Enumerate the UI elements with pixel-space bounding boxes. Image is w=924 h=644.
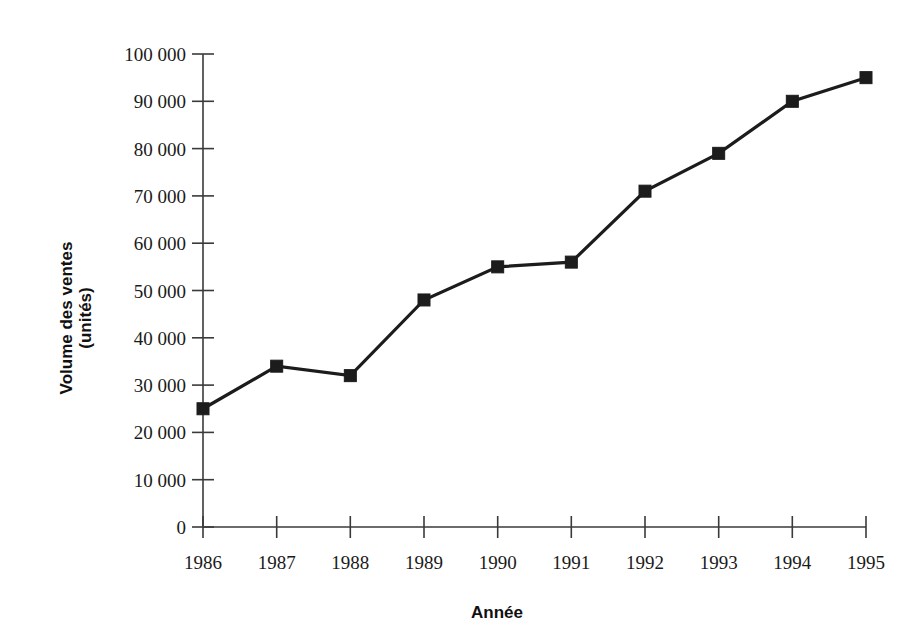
x-tick-label: 1995 [847, 552, 885, 573]
x-tick-label: 1990 [479, 552, 517, 573]
data-point-marker [860, 72, 872, 84]
x-tick-label: 1993 [700, 552, 738, 573]
y-tick-label: 100 000 [124, 44, 186, 65]
x-tick-label: 1988 [331, 552, 369, 573]
y-axis-title-line1: Volume des ventes [57, 242, 76, 395]
y-axis-title: Volume des ventes (unités) [57, 242, 95, 395]
y-tick-label: 0 [177, 517, 187, 538]
y-tick-label: 20 000 [134, 422, 186, 443]
data-point-marker [639, 185, 651, 197]
data-point-marker [344, 370, 356, 382]
y-tick-label: 40 000 [134, 328, 186, 349]
x-tick-label: 1992 [626, 552, 664, 573]
line-chart-canvas: 100 000 90 000 80 000 70 000 60 000 50 0… [0, 0, 924, 644]
sales-volume-markers [197, 72, 872, 415]
x-tick-label: 1987 [258, 552, 296, 573]
data-point-marker [713, 147, 725, 159]
y-tick-label: 90 000 [134, 91, 186, 112]
x-tick-label: 1994 [773, 552, 812, 573]
data-point-marker [197, 403, 209, 415]
y-axis-title-line2: (unités) [76, 287, 95, 348]
data-point-marker [786, 95, 798, 107]
y-tick-label: 30 000 [134, 375, 186, 396]
y-axis-tick-labels: 100 000 90 000 80 000 70 000 60 000 50 0… [124, 44, 186, 538]
sales-volume-line [203, 78, 866, 409]
x-tick-label: 1986 [184, 552, 222, 573]
data-point-marker [418, 294, 430, 306]
x-tick-label: 1991 [552, 552, 590, 573]
data-point-marker [492, 261, 504, 273]
x-axis-tick-labels: 1986 1987 1988 1989 1990 1991 1992 1993 … [184, 552, 885, 573]
data-point-marker [271, 360, 283, 372]
x-axis-title: Année [471, 603, 523, 622]
data-point-marker [565, 256, 577, 268]
y-tick-label: 10 000 [134, 470, 186, 491]
chart-figure: 100 000 90 000 80 000 70 000 60 000 50 0… [0, 0, 924, 644]
y-tick-label: 60 000 [134, 233, 186, 254]
y-tick-label: 70 000 [134, 186, 186, 207]
x-tick-label: 1989 [405, 552, 443, 573]
y-tick-label: 50 000 [134, 281, 186, 302]
y-tick-label: 80 000 [134, 139, 186, 160]
